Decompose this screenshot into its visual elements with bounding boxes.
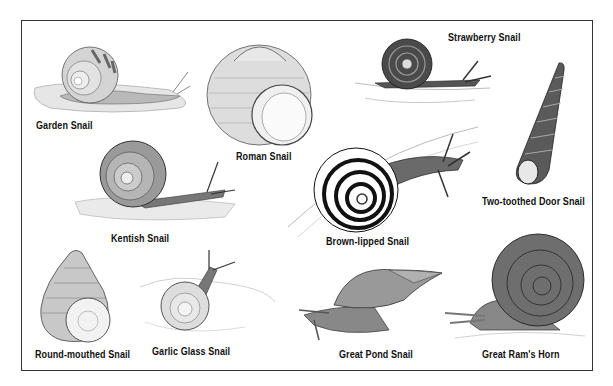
round-mouthed-snail-illustration (36, 248, 116, 348)
brown-lipped-snail-illustration (288, 122, 478, 237)
label-garlic-glass-snail: Garlic Glass Snail (152, 346, 230, 357)
great-pond-snail-illustration (294, 255, 444, 345)
garden-snail-illustration (30, 28, 190, 113)
kentish-snail-illustration (75, 132, 235, 227)
label-great-pond-snail: Great Pond Snail (339, 349, 413, 360)
label-two-toothed-door-snail: Two-toothed Door Snail (482, 196, 585, 207)
label-round-mouthed-snail: Round-mouthed Snail (35, 349, 130, 360)
great-rams-horn-illustration (440, 228, 590, 343)
label-garden-snail: Garden Snail (36, 120, 93, 131)
label-brown-lipped-snail: Brown-lipped Snail (326, 236, 409, 247)
garlic-glass-snail-illustration (135, 242, 275, 342)
label-roman-snail: Roman Snail (236, 151, 292, 162)
label-great-rams-horn: Great Ram's Horn (482, 349, 560, 360)
two-toothed-door-snail-illustration (509, 60, 569, 190)
label-strawberry-snail: Strawberry Snail (448, 32, 520, 43)
